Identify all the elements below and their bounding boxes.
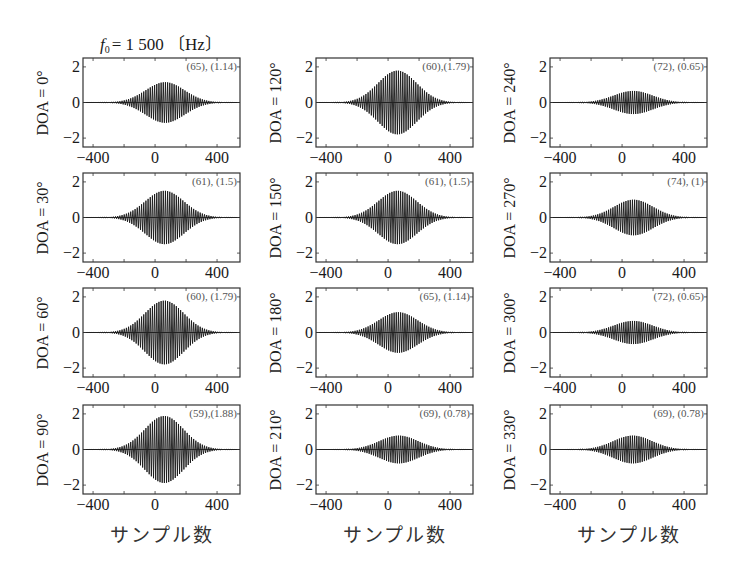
- x-tick-label: 0: [130, 380, 180, 396]
- y-tick-label: −2: [283, 245, 313, 261]
- subplot-doa-90: (59),(1.88): [83, 405, 240, 494]
- x-tick-label: 400: [659, 497, 709, 513]
- y-tick-label: −2: [50, 360, 80, 376]
- title-text: = 1 500 〔Hz〕: [112, 35, 222, 54]
- y-tick-label: −2: [517, 360, 547, 376]
- peak-annotation: (60),(1.79): [422, 60, 470, 72]
- y-tick-label: 0: [517, 325, 547, 341]
- y-tick-label: −2: [50, 130, 80, 146]
- x-tick-label: 400: [192, 497, 242, 513]
- subplot-doa-270: (74), (1): [550, 173, 707, 262]
- y-tick-label: −2: [283, 477, 313, 493]
- y-tick-label: −2: [283, 360, 313, 376]
- subplot-doa-30: (61), (1.5): [83, 173, 240, 262]
- y-tick-label: 2: [283, 59, 313, 75]
- subplot-doa-150: (61), (1.5): [316, 173, 473, 262]
- x-tick-label: −400: [535, 497, 585, 513]
- peak-annotation: (65), (1.14): [420, 290, 470, 302]
- x-tick-label: −400: [68, 265, 118, 281]
- x-tick-label: 400: [425, 380, 475, 396]
- x-tick-label: 0: [130, 497, 180, 513]
- x-tick-label: −400: [535, 380, 585, 396]
- y-tick-label: 2: [50, 289, 80, 305]
- y-tick-label: 0: [283, 325, 313, 341]
- x-tick-label: 0: [597, 380, 647, 396]
- x-tick-label: 0: [363, 150, 413, 166]
- peak-annotation: (65), (1.14): [187, 60, 237, 72]
- x-tick-label: 0: [363, 380, 413, 396]
- y-tick-label: 2: [517, 406, 547, 422]
- y-tick-label: 0: [50, 95, 80, 111]
- peak-annotation: (61), (1.5): [192, 175, 237, 187]
- figure-title: f0= 1 500 〔Hz〕: [100, 30, 222, 55]
- y-tick-label: 0: [517, 95, 547, 111]
- x-tick-label: 400: [192, 150, 242, 166]
- y-tick-label: 0: [50, 210, 80, 226]
- x-tick-label: −400: [68, 150, 118, 166]
- x-tick-label: −400: [301, 150, 351, 166]
- y-tick-label: 2: [283, 289, 313, 305]
- x-tick-label: −400: [68, 497, 118, 513]
- peak-annotation: (61), (1.5): [425, 175, 470, 187]
- x-axis-label: サンプル数: [559, 520, 699, 547]
- y-tick-label: −2: [517, 130, 547, 146]
- subplot-doa-120: (60),(1.79): [316, 58, 473, 147]
- peak-annotation: (69), (0.78): [420, 407, 470, 419]
- subplot-doa-210: (69), (0.78): [316, 405, 473, 494]
- x-tick-label: 0: [363, 265, 413, 281]
- y-tick-label: 0: [283, 95, 313, 111]
- subplot-doa-180: (65), (1.14): [316, 288, 473, 377]
- y-tick-label: 2: [50, 174, 80, 190]
- x-tick-label: 400: [192, 380, 242, 396]
- y-tick-label: 0: [283, 442, 313, 458]
- y-tick-label: 2: [50, 59, 80, 75]
- x-tick-label: 0: [597, 497, 647, 513]
- peak-annotation: (60), (1.79): [187, 290, 237, 302]
- y-tick-label: 2: [517, 289, 547, 305]
- x-tick-label: 0: [363, 497, 413, 513]
- y-tick-label: −2: [50, 245, 80, 261]
- y-tick-label: 2: [517, 59, 547, 75]
- x-tick-label: −400: [68, 380, 118, 396]
- x-axis-label: サンプル数: [325, 520, 465, 547]
- peak-annotation: (69), (0.78): [654, 407, 704, 419]
- x-tick-label: 400: [425, 150, 475, 166]
- x-tick-label: 400: [425, 265, 475, 281]
- x-tick-label: −400: [301, 265, 351, 281]
- y-tick-label: 2: [283, 174, 313, 190]
- peak-annotation: (72), (0.65): [654, 290, 704, 302]
- y-tick-label: −2: [283, 130, 313, 146]
- x-tick-label: −400: [301, 497, 351, 513]
- peak-annotation: (74), (1): [667, 175, 704, 187]
- y-tick-label: −2: [517, 477, 547, 493]
- y-tick-label: 0: [517, 210, 547, 226]
- x-tick-label: 0: [597, 265, 647, 281]
- y-tick-label: 0: [50, 442, 80, 458]
- peak-annotation: (72), (0.65): [654, 60, 704, 72]
- x-tick-label: 0: [597, 150, 647, 166]
- x-tick-label: 400: [192, 265, 242, 281]
- title-subscript: 0: [105, 44, 110, 55]
- x-tick-label: −400: [535, 265, 585, 281]
- y-tick-label: 2: [50, 406, 80, 422]
- y-tick-label: 2: [517, 174, 547, 190]
- x-tick-label: 0: [130, 150, 180, 166]
- y-tick-label: −2: [50, 477, 80, 493]
- x-tick-label: 400: [425, 497, 475, 513]
- y-tick-label: 0: [283, 210, 313, 226]
- y-tick-label: −2: [517, 245, 547, 261]
- x-tick-label: −400: [535, 150, 585, 166]
- x-tick-label: 400: [659, 265, 709, 281]
- peak-annotation: (59),(1.88): [189, 407, 237, 419]
- subplot-doa-300: (72), (0.65): [550, 288, 707, 377]
- y-tick-label: 0: [517, 442, 547, 458]
- subplot-doa-330: (69), (0.78): [550, 405, 707, 494]
- y-tick-label: 0: [50, 325, 80, 341]
- subplot-doa-0: (65), (1.14): [83, 58, 240, 147]
- y-tick-label: 2: [283, 406, 313, 422]
- x-tick-label: 400: [659, 150, 709, 166]
- x-tick-label: 0: [130, 265, 180, 281]
- subplot-doa-240: (72), (0.65): [550, 58, 707, 147]
- x-tick-label: 400: [659, 380, 709, 396]
- x-tick-label: −400: [301, 380, 351, 396]
